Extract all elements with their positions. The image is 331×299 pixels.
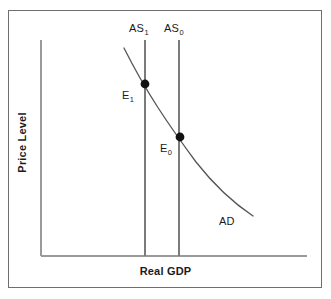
- e1-label-base: E: [122, 89, 130, 101]
- equilibrium-point-e0: [176, 133, 185, 142]
- y-axis-title: Price Level: [17, 93, 28, 193]
- as0-label: AS0: [164, 23, 183, 34]
- as0-label-subscript: 0: [179, 28, 183, 37]
- x-axis-title: Real GDP: [0, 266, 331, 277]
- as1-label-subscript: 1: [144, 28, 148, 37]
- e1-label-subscript: 1: [130, 95, 134, 104]
- e0-label-base: E: [160, 142, 168, 154]
- as0-label-base: AS: [164, 22, 179, 34]
- equilibrium-point-e1: [141, 80, 150, 89]
- as1-label: AS1: [129, 23, 148, 34]
- as-ad-diagram-figure: AS1 AS0 E1 E0 AD Real GDP Price Level: [0, 0, 331, 299]
- e0-label-subscript: 0: [168, 148, 172, 157]
- as1-label-base: AS: [129, 22, 144, 34]
- ad-curve: [124, 48, 253, 216]
- e0-label: E0: [160, 143, 172, 154]
- ad-label: AD: [219, 216, 235, 227]
- e1-label: E1: [122, 90, 134, 101]
